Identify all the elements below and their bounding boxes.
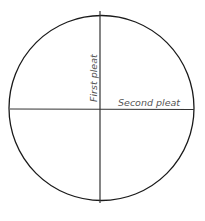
second-pleat-line <box>10 109 194 110</box>
second-pleat-label: Second pleat <box>118 97 181 108</box>
folding-diagram: First pleat Second pleat <box>0 0 205 221</box>
first-pleat-label: First pleat <box>88 53 99 102</box>
circle-outline <box>9 16 194 201</box>
